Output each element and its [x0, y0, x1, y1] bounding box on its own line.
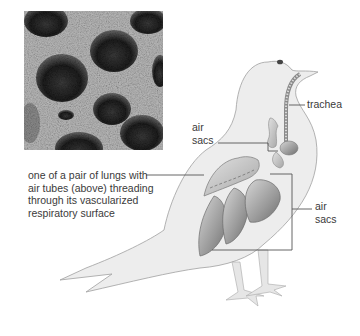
label-line: respiratory surface	[28, 207, 154, 220]
bird-leg-front	[246, 250, 286, 296]
label-trachea-text: trachea	[307, 98, 342, 110]
air-sac-clavicular	[280, 141, 298, 155]
label-line: air tubes (above) threading	[28, 182, 154, 195]
label-line: sacs	[192, 134, 214, 147]
label-air-sacs-posterior: air sacs	[315, 200, 337, 225]
bird-leg-back	[226, 262, 264, 306]
eye-icon	[277, 60, 283, 65]
label-line: through its vascularized	[28, 194, 154, 207]
label-line: one of a pair of lungs with	[28, 169, 154, 182]
label-lung: one of a pair of lungs with air tubes (a…	[28, 169, 154, 219]
label-line: sacs	[315, 213, 337, 226]
label-line: air	[315, 200, 337, 213]
label-trachea: trachea	[307, 98, 342, 111]
label-line: air	[192, 121, 214, 134]
label-air-sacs-anterior: air sacs	[192, 121, 214, 146]
bird-illustration	[0, 0, 360, 336]
